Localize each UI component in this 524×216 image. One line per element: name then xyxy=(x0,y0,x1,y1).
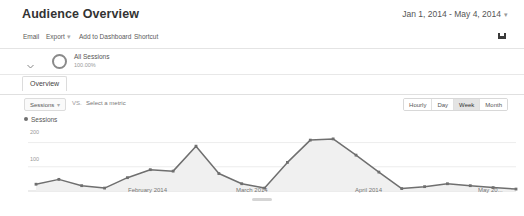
metric-dropdown-label: Sessions xyxy=(30,102,54,108)
tab-overview[interactable]: Overview xyxy=(22,76,67,91)
x-axis-label-may: May 20... xyxy=(478,187,503,193)
sessions-chart: Sessions 200 100 February 2014 March 201… xyxy=(0,116,524,198)
shortcut-button[interactable]: Shortcut xyxy=(134,33,158,40)
granularity-month[interactable]: Month xyxy=(480,99,507,110)
chevron-down-icon[interactable] xyxy=(26,57,35,66)
chevron-down-icon: ▾ xyxy=(57,102,60,108)
chevron-down-icon: ▾ xyxy=(67,33,71,40)
report-toolbar: Email Export▾ Add to Dashboard Shortcut xyxy=(0,28,524,49)
email-button[interactable]: Email xyxy=(23,33,39,40)
tab-strip: Overview xyxy=(0,74,524,95)
page-header: Audience Overview Jan 1, 2014 - May 4, 2… xyxy=(0,0,524,28)
save-icon[interactable] xyxy=(497,32,507,40)
granularity-hourly[interactable]: Hourly xyxy=(404,99,432,110)
select-a-metric-button[interactable]: Select a metric xyxy=(86,100,126,106)
granularity-button-group: Hourly Day Week Month xyxy=(403,98,508,111)
segment-bar: All Sessions 100.00% xyxy=(0,48,524,75)
chevron-down-icon: ▾ xyxy=(504,11,508,18)
segment-name: All Sessions xyxy=(74,53,109,61)
segment-donut-icon xyxy=(52,54,67,69)
segment-percent: 100.00% xyxy=(74,61,109,69)
chart-horizontal-scrollbar[interactable] xyxy=(252,198,272,201)
vs-label: VS. xyxy=(72,100,82,106)
x-axis-label-march: March 2014 xyxy=(236,187,268,193)
date-range-label: Jan 1, 2014 - May 4, 2014 xyxy=(402,9,501,19)
date-range-selector[interactable]: Jan 1, 2014 - May 4, 2014▾ xyxy=(402,9,508,19)
add-to-dashboard-button[interactable]: Add to Dashboard xyxy=(79,33,131,40)
export-label: Export xyxy=(46,33,65,40)
x-axis-label-april: April 2014 xyxy=(355,187,382,193)
segment-info[interactable]: All Sessions 100.00% xyxy=(74,53,109,69)
page-title: Audience Overview xyxy=(22,7,139,21)
metric-selector-row: Sessions▾ VS. Select a metric Hourly Day… xyxy=(0,94,524,116)
granularity-day[interactable]: Day xyxy=(432,99,454,110)
chart-plot-area[interactable] xyxy=(0,116,524,198)
x-axis-label-february: February 2014 xyxy=(128,187,167,193)
metric-dropdown[interactable]: Sessions▾ xyxy=(24,98,66,111)
export-button[interactable]: Export▾ xyxy=(46,33,71,41)
audience-overview-page: Audience Overview Jan 1, 2014 - May 4, 2… xyxy=(0,0,524,216)
granularity-week[interactable]: Week xyxy=(454,99,480,110)
